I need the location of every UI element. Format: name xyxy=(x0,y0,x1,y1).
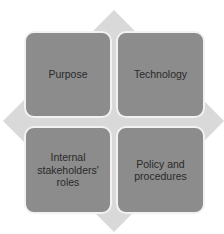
quadrant-purpose: Purpose xyxy=(24,31,112,118)
quadrant-label: Technology xyxy=(128,68,193,81)
quadrant-label: Purpose xyxy=(42,68,93,81)
quadrant-label: Internal stakeholders' roles xyxy=(26,151,110,189)
quadrant-technology: Technology xyxy=(116,31,205,118)
quadrant-label: Policy and procedures xyxy=(118,158,203,183)
quadrant-diagram: Purpose Technology Internal stakeholders… xyxy=(0,0,224,234)
quadrant-internal-stakeholders-roles: Internal stakeholders' roles xyxy=(24,126,112,214)
quadrant-policy-and-procedures: Policy and procedures xyxy=(116,126,205,214)
